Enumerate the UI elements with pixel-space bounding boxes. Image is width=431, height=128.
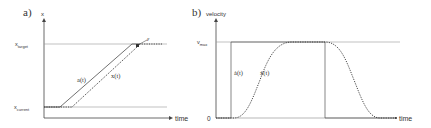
- epsilon-label: ε: [147, 36, 150, 42]
- panel-b-y-axis-label: velocity: [206, 11, 226, 17]
- actual-velocity-label: ẋ(t): [260, 69, 269, 77]
- epsilon-region: [136, 44, 139, 47]
- x-target-label: xtarget: [15, 41, 29, 49]
- panel-b-velocity-plot: b) velocity time vmax 0 ȧ(t) ẋ(t): [192, 6, 412, 122]
- commanded-position-curve: [44, 44, 140, 107]
- zero-label: 0: [207, 115, 211, 122]
- commanded-position-label: a(t): [77, 76, 86, 84]
- commanded-velocity-curve: [216, 42, 396, 118]
- panel-b-x-axis-label: time: [399, 115, 412, 122]
- panel-a-y-axis-label: x: [41, 11, 44, 17]
- diagram-canvas: a) x time xtarget xcurrent ε a(t) x(t) b…: [0, 0, 431, 128]
- panel-a-position-plot: a) x time xtarget xcurrent ε a(t) x(t): [14, 6, 188, 122]
- panel-b-label: b): [192, 6, 202, 19]
- commanded-velocity-label: ȧ(t): [234, 69, 243, 77]
- panel-a-label: a): [23, 6, 32, 19]
- vmax-label: vmax: [197, 39, 207, 47]
- actual-position-label: x(t): [111, 72, 120, 80]
- actual-velocity-curve: [216, 42, 396, 118]
- panel-b-x-axis-arrow: [395, 117, 397, 119]
- actual-position-curve: [44, 44, 162, 107]
- panel-a-x-axis-label: time: [175, 115, 188, 122]
- x-current-label: xcurrent: [14, 104, 30, 112]
